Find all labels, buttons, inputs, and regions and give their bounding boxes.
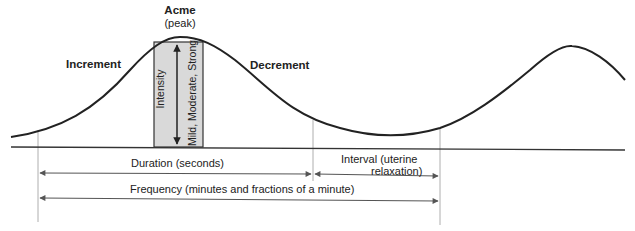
duration-label: Duration (seconds) xyxy=(131,157,224,169)
frequency-arrow xyxy=(40,198,438,201)
increment-label: Increment xyxy=(66,58,121,71)
frequency-label: Frequency (minutes and fractions of a mi… xyxy=(130,183,354,195)
peak-label: (peak) xyxy=(157,17,203,29)
acme-label: Acme xyxy=(160,4,200,17)
decrement-label: Decrement xyxy=(250,59,309,72)
interval-label-line1: Interval (uterine xyxy=(341,153,417,165)
contraction-diagram xyxy=(0,0,635,231)
contraction-curve xyxy=(11,37,625,137)
baseline xyxy=(11,147,625,150)
intensity-label: Intensity xyxy=(154,59,166,119)
duration-arrow xyxy=(40,173,311,174)
interval-label-line2: relaxation) xyxy=(371,165,422,177)
intensity-levels-label: Mild, Moderate, Strong xyxy=(186,33,198,153)
